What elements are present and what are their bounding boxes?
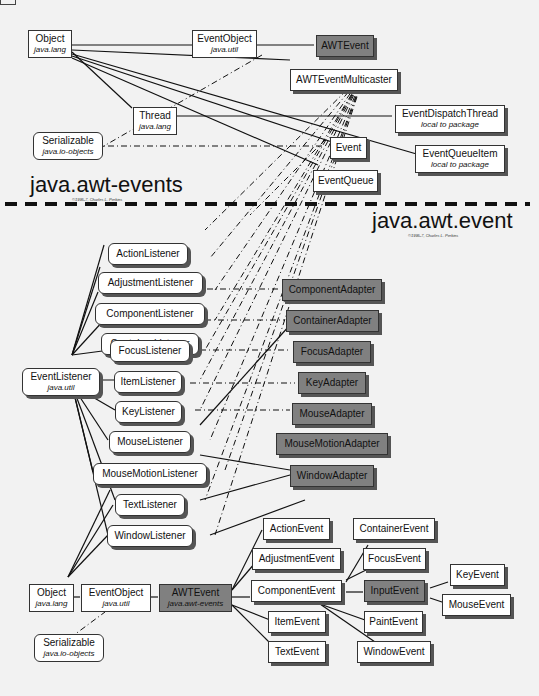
node-package: java.io-objects	[39, 649, 99, 659]
event-paint: PaintEvent	[364, 611, 423, 633]
event-key: KeyEvent	[450, 564, 505, 586]
eventobject-node: EventObject java.util	[192, 30, 257, 58]
adapter-mouse: MouseAdapter	[292, 403, 372, 425]
node-label: MouseListener	[117, 436, 183, 447]
node-label: EventObject	[86, 587, 146, 599]
node-label: AWTEvent	[164, 587, 227, 599]
node-label: TextEvent	[275, 646, 319, 657]
adapter-focus: FocusAdapter	[293, 341, 371, 363]
node-label: ContainerEvent	[360, 523, 429, 534]
serializable-node: Serializable java.io-objects	[33, 132, 103, 160]
listener-component: ComponentListener	[95, 303, 205, 325]
adapter-window: WindowAdapter	[290, 465, 374, 487]
event-item: ItemEvent	[268, 611, 326, 633]
node-label: PaintEvent	[369, 616, 417, 627]
node-label: FocusAdapter	[301, 346, 363, 357]
node-label: MouseMotionListener	[102, 468, 198, 479]
node-package: java.util	[86, 599, 146, 609]
node-label: ComponentListener	[106, 308, 193, 319]
copyright-bottom: ©1995-7, Charles L. Perkins	[408, 233, 458, 238]
node-label: FocusEvent	[368, 553, 421, 564]
node-label: Thread	[138, 110, 172, 122]
node-label: Object	[33, 33, 67, 45]
node-label: MouseEvent	[449, 599, 505, 610]
node-label: AdjustmentListener	[108, 277, 194, 288]
node-label: WindowEvent	[363, 646, 424, 657]
event-action: ActionEvent	[263, 518, 330, 540]
adapter-key: KeyAdapter	[298, 372, 366, 394]
node-package: java.lang	[33, 45, 67, 55]
node-package: java.awt-events	[164, 599, 227, 609]
node-label: Serializable	[39, 637, 99, 649]
event-node: Event	[330, 137, 367, 159]
awtevent-node-bottom: AWTEvent java.awt-events	[159, 584, 232, 612]
node-label: ActionEvent	[270, 523, 323, 534]
node-label: ItemEvent	[274, 616, 319, 627]
node-label: ComponentEvent	[258, 585, 335, 596]
node-label: EventQueue	[318, 175, 373, 187]
event-input: InputEvent	[364, 580, 425, 602]
node-package: java.lang	[138, 122, 172, 132]
node-label: WindowListener	[114, 530, 185, 541]
event-mouse: MouseEvent	[442, 594, 511, 616]
node-label: AdjustmentEvent	[259, 553, 335, 564]
awtevent-node: AWTEvent	[316, 35, 374, 57]
copyright-top: ©1995-7, Charles L. Perkins	[72, 197, 122, 202]
node-label: AWTEventMulticaster	[295, 74, 393, 86]
node-label: WindowAdapter	[297, 470, 368, 481]
listener-text: TextListener	[115, 494, 185, 516]
node-package: java.lang	[34, 599, 69, 609]
listener-window: WindowListener	[107, 525, 193, 547]
object-node-bottom: Object java.lang	[29, 584, 74, 612]
event-component: ComponentEvent	[251, 580, 342, 602]
adapter-container: ContainerAdapter	[286, 310, 379, 332]
node-package: local to package	[420, 160, 500, 170]
node-label: Object	[34, 587, 69, 599]
node-label: TextListener	[123, 499, 177, 510]
node-label: InputEvent	[371, 585, 419, 596]
event-window: WindowEvent	[357, 641, 431, 663]
serializable-node-bottom: Serializable java.io-objects	[34, 634, 104, 662]
eventobject-node-bottom: EventObject java.util	[81, 584, 151, 612]
node-label: EventListener	[27, 371, 95, 383]
event-adjustment: AdjustmentEvent	[252, 548, 341, 570]
node-label: ContainerAdapter	[293, 315, 371, 326]
adapter-component: ComponentAdapter	[282, 279, 382, 301]
listener-key: KeyListener	[115, 401, 182, 423]
listener-action: ActionListener	[108, 243, 188, 265]
node-label: ComponentAdapter	[289, 284, 376, 295]
thread-node: Thread java.lang	[133, 107, 177, 135]
node-label: MouseMotionAdapter	[284, 438, 379, 449]
event-text: TextEvent	[268, 641, 326, 663]
node-label: Serializable	[38, 135, 98, 147]
node-package: local to package	[400, 120, 500, 130]
node-label: KeyEvent	[456, 569, 499, 580]
event-container: ContainerEvent	[353, 518, 435, 540]
node-label: KeyListener	[122, 406, 175, 417]
listener-adjustment: AdjustmentListener	[98, 272, 203, 294]
listener-mouse: MouseListener	[109, 431, 191, 453]
eventqueue-node: EventQueue	[313, 170, 378, 192]
node-package: java.io-objects	[38, 147, 98, 157]
eventqueueitem-node: EventQueueItem local to package	[415, 145, 505, 173]
node-label: FocusListener	[119, 345, 182, 356]
node-package: java.util	[27, 383, 95, 393]
section-title-awt-events: java.awt-events	[30, 172, 183, 198]
node-label: EventDispatchThread	[400, 108, 500, 120]
eventdispatchthread-node: EventDispatchThread local to package	[395, 105, 505, 133]
object-node: Object java.lang	[28, 30, 72, 58]
listener-item: ItemListener	[114, 371, 182, 393]
node-label: MouseAdapter	[299, 408, 364, 419]
section-title-awt-event: java.awt.event	[372, 208, 513, 234]
node-label: ItemListener	[120, 376, 175, 387]
node-package: java.util	[197, 45, 252, 55]
node-label: EventQueueItem	[420, 148, 500, 160]
node-label: KeyAdapter	[306, 377, 358, 388]
event-focus: FocusEvent	[363, 548, 426, 570]
listener-focus-label: FocusListener	[110, 340, 190, 362]
node-label: EventObject	[197, 33, 252, 45]
eventlistener-node: EventListener java.util	[22, 368, 100, 396]
node-label: Event	[335, 142, 362, 154]
adapter-mousemotion: MouseMotionAdapter	[276, 433, 388, 455]
awteventmulticaster-node: AWTEventMulticaster	[290, 69, 398, 91]
